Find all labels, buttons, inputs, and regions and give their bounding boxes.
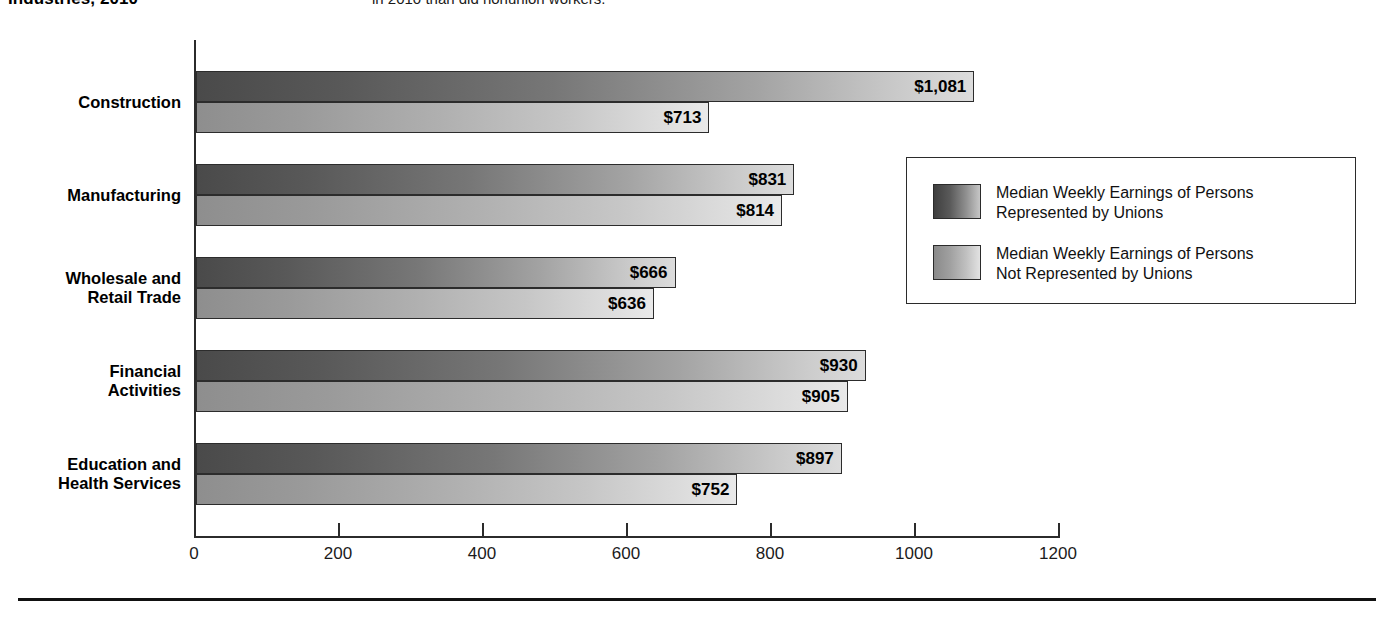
nonunion-swatch (933, 245, 981, 280)
legend-item: Median Weekly Earnings of Persons Not Re… (933, 244, 1254, 284)
union-swatch (933, 184, 981, 219)
bar-value-label: $636 (608, 294, 646, 314)
x-axis-tick-label: 800 (756, 544, 784, 564)
x-axis-tick (338, 523, 340, 538)
bar-value-label: $930 (820, 356, 858, 376)
x-axis-tick-label: 600 (612, 544, 640, 564)
x-axis-tick-label: 400 (468, 544, 496, 564)
bar-union: $831 (196, 164, 794, 195)
legend-label: Median Weekly Earnings of Persons Not Re… (996, 244, 1254, 284)
headline-right: in 2010 than did nonunion workers. (372, 0, 606, 7)
category-label: Construction (78, 93, 181, 112)
bar-union: $930 (196, 350, 866, 381)
bar-nonunion: $905 (196, 381, 848, 412)
bar-value-label: $666 (630, 263, 668, 283)
headline-left: Industries, 2010 (8, 0, 138, 9)
x-axis-tick-label: 200 (324, 544, 352, 564)
category-label: Wholesale and Retail Trade (65, 269, 181, 307)
x-axis-tick-label: 0 (189, 544, 198, 564)
bar-value-label: $752 (692, 480, 730, 500)
bar-nonunion: $752 (196, 474, 737, 505)
x-axis-tick (1058, 523, 1060, 538)
x-axis-tick (914, 523, 916, 538)
legend-item: Median Weekly Earnings of Persons Repres… (933, 183, 1254, 223)
category-label: Education and Health Services (58, 455, 181, 493)
bar-union: $1,081 (196, 71, 974, 102)
bar-union: $666 (196, 257, 676, 288)
x-axis-tick (194, 523, 196, 538)
bar-value-label: $1,081 (914, 77, 966, 97)
x-axis-tick-label: 1000 (895, 544, 933, 564)
bar-value-label: $713 (664, 108, 702, 128)
x-axis-tick (770, 523, 772, 538)
x-axis-tick (626, 523, 628, 538)
bar-value-label: $831 (748, 170, 786, 190)
bar-nonunion: $636 (196, 288, 654, 319)
chart-page: Industries, 2010 in 2010 than did nonuni… (0, 0, 1393, 621)
x-axis-tick (482, 523, 484, 538)
category-label: Manufacturing (67, 186, 181, 205)
bar-value-label: $897 (796, 449, 834, 469)
chart-legend: Median Weekly Earnings of Persons Repres… (906, 157, 1356, 304)
bar-value-label: $814 (736, 201, 774, 221)
bar-union: $897 (196, 443, 842, 474)
bottom-divider (18, 598, 1376, 601)
bar-value-label: $905 (802, 387, 840, 407)
bar-nonunion: $814 (196, 195, 782, 226)
category-label: Financial Activities (108, 362, 181, 400)
bar-nonunion: $713 (196, 102, 709, 133)
x-axis-tick-label: 1200 (1039, 544, 1077, 564)
legend-label: Median Weekly Earnings of Persons Repres… (996, 183, 1254, 223)
